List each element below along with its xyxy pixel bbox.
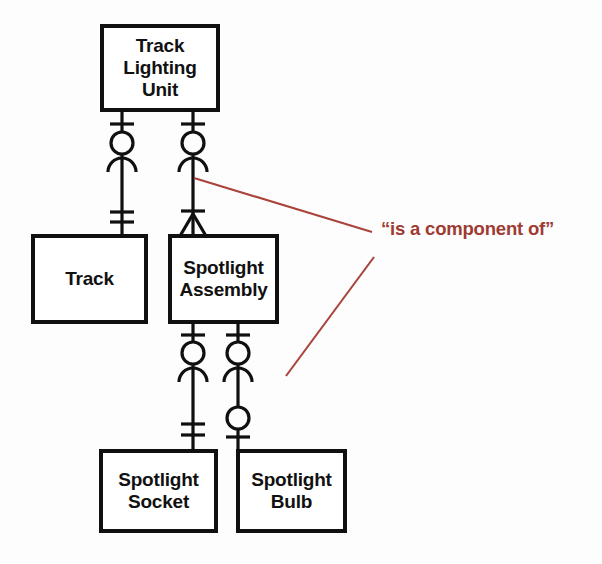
relationship-annotation-label: “is a component of” (381, 218, 554, 240)
relationship-assembly-to-bulb[interactable] (224, 322, 252, 451)
upper-leader-line (194, 178, 372, 232)
optional-circle-icon (111, 132, 133, 154)
optional-circle-icon (182, 132, 204, 154)
optional-circle-icon (227, 342, 249, 364)
optional-circle-icon (182, 342, 204, 364)
entity-box-spotlight-assembly[interactable] (170, 236, 277, 322)
relationship-assembly-to-socket[interactable] (179, 322, 207, 451)
entity-boxes (33, 26, 345, 531)
entity-box-spotlight-bulb[interactable] (238, 451, 345, 531)
diagram-graphics (0, 0, 602, 564)
lower-leader-line (286, 257, 374, 376)
entity-box-track-lighting-unit[interactable] (102, 26, 218, 110)
entity-box-track[interactable] (33, 236, 146, 322)
optional-circle-icon (227, 407, 249, 429)
diagram-canvas: Track Lighting Unit Track Spotlight Asse… (0, 0, 602, 564)
entity-box-spotlight-socket[interactable] (101, 451, 216, 531)
relationship-unit-to-track[interactable] (108, 110, 136, 236)
relationship-unit-to-spotlight-assembly[interactable] (179, 110, 207, 236)
